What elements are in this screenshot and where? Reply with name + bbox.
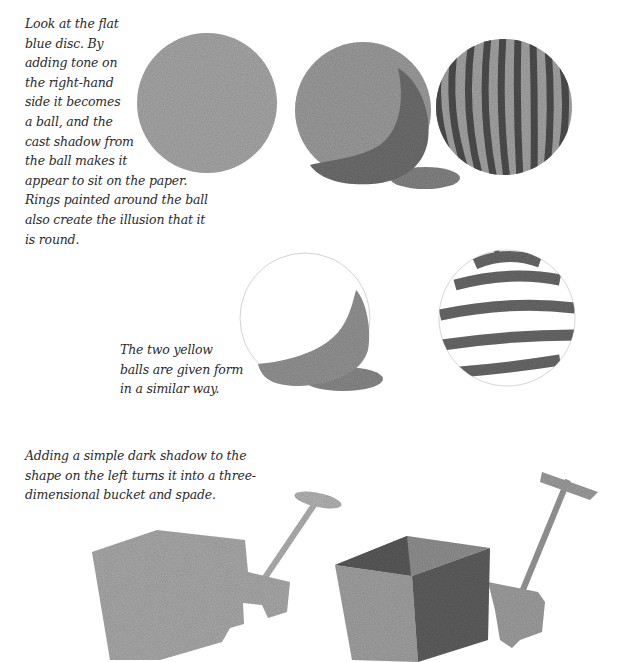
disc-caption: Look at the flat blue disc. By adding to… bbox=[25, 14, 208, 249]
caption-line: adding tone on bbox=[25, 53, 208, 73]
caption-line: is round. bbox=[25, 230, 208, 250]
caption-line: appear to sit on the paper. bbox=[25, 171, 208, 191]
yellow-ball-shaded bbox=[240, 253, 383, 391]
caption-line: the ball makes it bbox=[25, 151, 208, 171]
caption-line: also create the illusion that it bbox=[25, 210, 208, 230]
caption-line: shape on the left turns it into a three- bbox=[25, 466, 256, 486]
caption-line: Look at the flat bbox=[25, 14, 208, 34]
caption-line: Adding a simple dark shadow to the bbox=[25, 446, 256, 466]
caption-line: blue disc. By bbox=[25, 34, 208, 54]
yellow-balls-caption: The two yellow balls are given form in a… bbox=[120, 340, 243, 399]
caption-line: in a similar way. bbox=[120, 379, 243, 399]
bucket-caption: Adding a simple dark shadow to the shape… bbox=[25, 446, 256, 505]
caption-line: Rings painted around the ball bbox=[25, 190, 208, 210]
caption-line: The two yellow bbox=[120, 340, 243, 360]
yellow-ball-rings bbox=[439, 250, 575, 386]
caption-line: cast shadow from bbox=[25, 132, 208, 152]
caption-line: side it becomes bbox=[25, 92, 208, 112]
caption-line: dimensional bucket and spade. bbox=[25, 485, 256, 505]
3d-bucket-and-spade bbox=[335, 472, 598, 662]
caption-line: balls are given form bbox=[120, 360, 243, 380]
caption-line: the right-hand bbox=[25, 73, 208, 93]
caption-line: a ball, and the bbox=[25, 112, 208, 132]
flat-bucket-and-spade bbox=[92, 488, 343, 660]
striped-ball bbox=[436, 35, 572, 180]
shaded-ball-with-cast-shadow bbox=[295, 42, 460, 189]
